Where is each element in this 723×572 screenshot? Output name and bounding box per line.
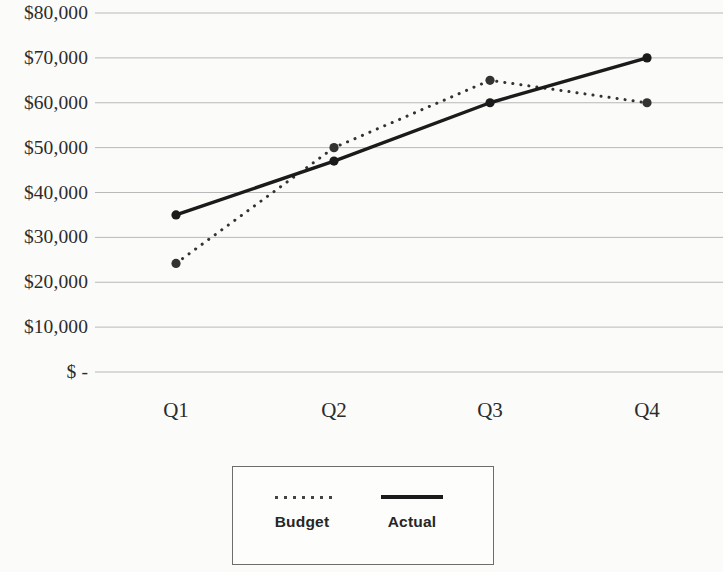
- y-axis-tick-label: $10,000: [0, 316, 88, 338]
- y-axis-tick-label: $70,000: [0, 47, 88, 69]
- y-axis-tick-label: $60,000: [0, 92, 88, 114]
- y-axis-tick-label: $20,000: [0, 271, 88, 293]
- x-axis-tick-label-q2: Q2: [294, 398, 374, 423]
- data-point-actual-q2: [329, 156, 338, 165]
- data-point-budget-q4: [642, 98, 651, 107]
- gridlines: [95, 13, 723, 372]
- x-axis-tick-label-q1: Q1: [136, 398, 216, 423]
- legend-swatch-actual: [357, 491, 467, 503]
- solid-line-icon: [381, 495, 443, 499]
- legend-swatch-budget: [247, 491, 357, 503]
- legend-label-budget: Budget: [247, 513, 357, 531]
- legend-entry-budget: Budget: [247, 491, 357, 531]
- data-point-actual-q4: [642, 53, 651, 62]
- data-point-budget-q3: [485, 76, 494, 85]
- y-axis-tick-label: $40,000: [0, 182, 88, 204]
- legend-label-actual: Actual: [357, 513, 467, 531]
- y-axis-tick-label: $80,000: [0, 2, 88, 24]
- series-markers: [171, 53, 651, 268]
- series-line-budget: [176, 80, 647, 263]
- dotted-line-icon: [272, 496, 332, 499]
- plot-area: [0, 0, 723, 400]
- series-line-actual: [176, 58, 647, 215]
- data-point-budget-q1: [171, 259, 180, 268]
- y-axis-tick-label: $ -: [0, 361, 88, 383]
- data-point-actual-q1: [171, 210, 180, 219]
- y-axis-tick-label: $30,000: [0, 226, 88, 248]
- legend: Budget Actual: [232, 466, 494, 565]
- data-point-actual-q3: [485, 98, 494, 107]
- x-axis-tick-label-q4: Q4: [607, 398, 687, 423]
- legend-entry-actual: Actual: [357, 491, 467, 531]
- series-lines: [176, 58, 647, 264]
- data-point-budget-q2: [329, 143, 338, 152]
- line-chart: $ -$10,000$20,000$30,000$40,000$50,000$6…: [0, 0, 723, 572]
- y-axis-tick-label: $50,000: [0, 137, 88, 159]
- x-axis-tick-label-q3: Q3: [450, 398, 530, 423]
